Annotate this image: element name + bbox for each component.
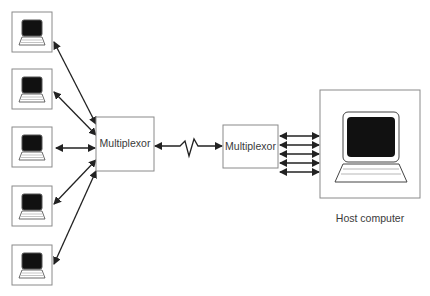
terminal-4 (12, 186, 52, 226)
terminal-1 (12, 12, 52, 52)
host-computer (320, 90, 420, 198)
host-channels (280, 136, 319, 172)
communication-link (155, 139, 222, 156)
mux-right-label: Multiplexor (223, 140, 278, 152)
terminal-links (54, 42, 96, 264)
host-computer-label: Host computer (320, 212, 420, 224)
terminal-2 (12, 69, 52, 109)
mux-left-label: Multiplexor (96, 137, 154, 149)
terminal-5 (12, 245, 52, 285)
terminal-3 (12, 127, 52, 167)
diagram-canvas (0, 0, 430, 296)
